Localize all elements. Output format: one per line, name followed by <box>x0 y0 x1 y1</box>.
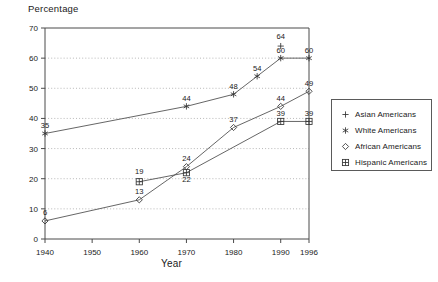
diamond-icon <box>339 140 352 153</box>
legend-item-label: African Americans <box>355 142 421 151</box>
legend-item[interactable]: Hispanic Americans <box>339 155 427 169</box>
data-point-label: 35 <box>41 121 49 130</box>
data-point-label: 64 <box>276 32 284 41</box>
data-point-label: 22 <box>182 175 190 184</box>
data-series <box>42 43 312 224</box>
x-axis-ticks: 1940195019601970198019901996 <box>36 239 318 257</box>
legend-item-label: Asian Americans <box>355 110 416 119</box>
data-point-labels: 643544485460606132437444919223939 <box>41 32 313 218</box>
y-tick-label: 0 <box>34 235 39 244</box>
data-point-label: 39 <box>276 109 284 118</box>
x-tick-label: 1950 <box>83 248 101 257</box>
x-tick-label: 1990 <box>272 248 290 257</box>
y-tick-label: 40 <box>29 114 38 123</box>
data-point-label: 44 <box>276 94 284 103</box>
data-point-label: 19 <box>135 167 143 176</box>
data-point-marker <box>342 159 348 165</box>
data-point-label: 13 <box>135 187 143 196</box>
data-point-marker <box>231 91 237 97</box>
plus-icon <box>339 108 352 121</box>
data-point-marker <box>136 179 142 185</box>
legend-item[interactable]: White Americans <box>339 123 417 137</box>
data-point-marker <box>306 118 312 124</box>
boxed-plus-icon <box>339 156 352 169</box>
y-tick-label: 50 <box>29 84 38 93</box>
data-point-label: 60 <box>305 46 313 55</box>
data-point-label: 60 <box>276 46 284 55</box>
data-point-label: 49 <box>305 79 313 88</box>
data-point-marker <box>342 143 348 149</box>
data-point-label: 37 <box>229 115 237 124</box>
x-tick-label: 1960 <box>130 248 148 257</box>
data-point-marker <box>343 127 349 133</box>
data-point-label: 39 <box>305 109 313 118</box>
series-line <box>139 121 309 181</box>
y-tick-label: 60 <box>29 54 38 63</box>
series-line <box>45 58 309 133</box>
x-tick-label: 1996 <box>300 248 318 257</box>
gridlines <box>45 58 309 209</box>
data-point-label: 54 <box>253 64 261 73</box>
x-tick-label: 1980 <box>225 248 243 257</box>
legend: Asian AmericansWhite AmericansAfrican Am… <box>331 99 432 171</box>
y-tick-label: 10 <box>29 205 38 214</box>
legend-item[interactable]: African Americans <box>339 139 421 153</box>
data-point-marker <box>278 118 284 124</box>
x-tick-label: 1970 <box>178 248 196 257</box>
legend-item-label: Hispanic Americans <box>355 158 427 167</box>
y-tick-label: 30 <box>29 145 38 154</box>
x-tick-label: 1940 <box>36 248 54 257</box>
data-point-label: 44 <box>182 94 190 103</box>
asterisk-icon <box>339 124 352 137</box>
y-tick-label: 70 <box>29 24 38 33</box>
legend-item[interactable]: Asian Americans <box>339 107 416 121</box>
data-point-marker <box>254 73 260 79</box>
legend-item-label: White Americans <box>355 126 417 135</box>
data-point-marker <box>342 111 348 117</box>
data-point-label: 48 <box>229 82 237 91</box>
data-point-label: 24 <box>182 154 190 163</box>
chart-container: Percentage Year 010203040506070 19401950… <box>0 0 438 282</box>
y-tick-label: 20 <box>29 175 38 184</box>
data-point-label: 6 <box>43 208 47 217</box>
axis-lines <box>45 28 309 239</box>
series-line <box>45 91 309 221</box>
